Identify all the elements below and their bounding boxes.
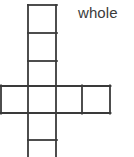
column-cell-1 (28, 5, 56, 33)
column-cell-4 (28, 113, 56, 140)
whole-label: whole (77, 4, 118, 21)
row-cell-3 (56, 86, 82, 113)
row-cell-1 (1, 86, 28, 113)
column-cell-5 (28, 140, 56, 157)
figure-container: whole (0, 0, 134, 157)
column-cell-2 (28, 33, 56, 61)
row-cell-2 (28, 86, 56, 113)
polyomino-grid-diagram: whole (0, 0, 134, 157)
column-cell-3 (28, 61, 56, 86)
row-cell-4 (82, 86, 110, 113)
diagram-background (0, 0, 134, 157)
